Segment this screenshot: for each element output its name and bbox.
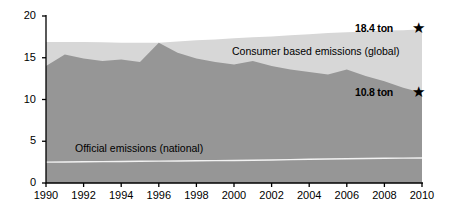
- x-axis-label-1998: 1998: [176, 189, 216, 201]
- x-axis-label-2002: 2002: [252, 189, 292, 201]
- x-axis-label-1996: 1996: [139, 189, 179, 201]
- x-axis-label-2006: 2006: [327, 189, 367, 201]
- consumer-series-label: Consumer based emissions (global): [232, 45, 400, 57]
- x-axis-label-1994: 1994: [101, 189, 141, 201]
- consumer-callout-star-icon: ★: [412, 20, 425, 35]
- consumer-callout-label: 18.4 ton: [355, 22, 393, 34]
- x-axis-label-2000: 2000: [214, 189, 254, 201]
- x-axis-label-2008: 2008: [364, 189, 404, 201]
- official-callout-label: 10.8 ton: [355, 86, 393, 98]
- official-series-label: Official emissions (national): [75, 142, 203, 154]
- y-axis-label-5: 5: [6, 134, 36, 146]
- x-axis-label-1990: 1990: [26, 189, 66, 201]
- y-axis-label-0: 0: [6, 176, 36, 188]
- x-axis-label-1992: 1992: [64, 189, 104, 201]
- y-axis-label-10: 10: [6, 93, 36, 105]
- x-axis-label-2010: 2010: [402, 189, 442, 201]
- emissions-area-chart: 05101520 1990199219941996199820002002200…: [0, 0, 454, 219]
- y-axis-label-15: 15: [6, 51, 36, 63]
- x-axis-label-2004: 2004: [289, 189, 329, 201]
- y-axis-label-20: 20: [6, 9, 36, 21]
- official-callout-star-icon: ★: [412, 84, 425, 99]
